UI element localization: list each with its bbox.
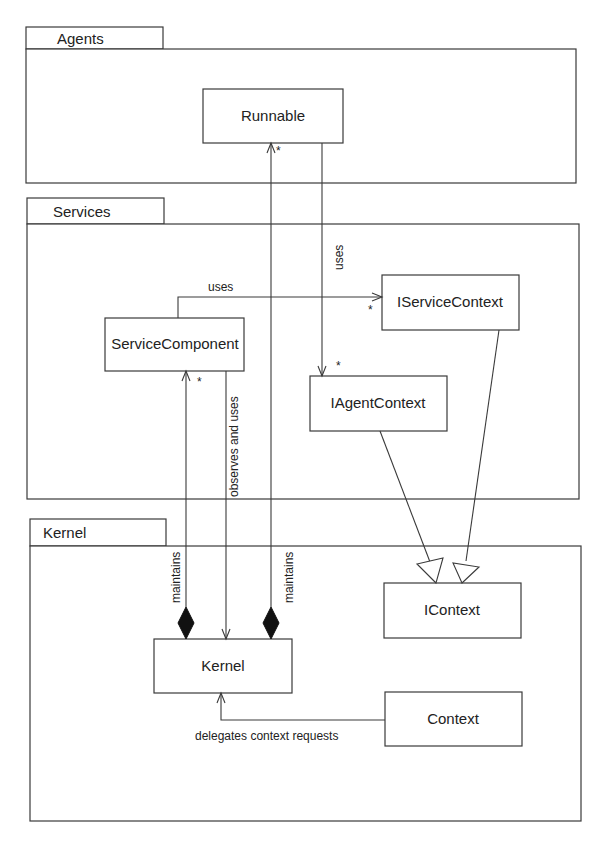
multiplicity: * [276, 144, 281, 158]
package-label-services: Services [53, 203, 111, 220]
class-kernel[interactable]: Kernel [154, 639, 292, 693]
multiplicity: * [197, 375, 202, 389]
class-label-iservice-context: IServiceContext [397, 293, 504, 310]
package-label-agents: Agents [57, 30, 104, 47]
edge-label-observes-and-uses: observes and uses [227, 396, 241, 497]
multiplicity: * [336, 359, 341, 373]
class-iagent-context[interactable]: IAgentContext [310, 376, 447, 431]
edge-label-uses: uses [208, 280, 233, 294]
class-service-component[interactable]: ServiceComponent [105, 318, 244, 371]
class-label-service-component: ServiceComponent [111, 335, 239, 352]
class-label-icontext: IContext [424, 601, 481, 618]
class-icontext[interactable]: IContext [384, 583, 521, 638]
class-context[interactable]: Context [385, 692, 522, 746]
edge-label-uses: uses [332, 245, 346, 270]
class-label-runnable: Runnable [241, 107, 305, 124]
class-iservice-context[interactable]: IServiceContext [382, 275, 519, 330]
package-kernel: Kernel [30, 519, 581, 821]
class-label-iagent-context: IAgentContext [330, 394, 426, 411]
class-label-kernel: Kernel [201, 657, 244, 674]
class-runnable[interactable]: Runnable [203, 89, 343, 143]
edge-label-maintains: maintains [282, 552, 296, 603]
package-label-kernel: Kernel [43, 524, 86, 541]
multiplicity: * [368, 303, 373, 317]
uml-diagram: Agents Services Kernel Runnable ServiceC… [0, 0, 607, 845]
edge-label-maintains: maintains [169, 552, 183, 603]
edge-label-delegates: delegates context requests [195, 729, 338, 743]
class-label-context: Context [427, 710, 480, 727]
